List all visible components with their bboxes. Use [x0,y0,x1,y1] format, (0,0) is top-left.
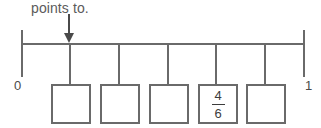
fraction-denominator: 6 [214,106,221,120]
answer-box-empty[interactable] [149,84,189,124]
box-connector-stem [215,44,217,85]
number-line-diagram: points to. 0 1 46 [0,0,321,128]
down-arrow-icon-shaft [68,14,70,35]
number-line-axis [21,43,305,45]
axis-label-start: 0 [14,79,21,93]
axis-label-end: 1 [305,79,312,93]
box-connector-stem [264,44,266,85]
tick-end [303,30,305,77]
tick-start [21,30,23,77]
prompt-text: points to. [31,0,89,16]
box-connector-stem [167,44,169,85]
answer-box-empty[interactable] [100,84,140,124]
box-connector-stem [118,44,120,85]
answer-box-empty[interactable] [51,84,91,124]
fraction-bar [212,104,225,105]
box-connector-stem [69,44,71,85]
fraction: 46 [212,89,225,120]
down-arrow-icon [64,33,74,43]
fraction-numerator: 4 [214,89,221,103]
answer-box-filled[interactable]: 46 [198,84,238,124]
answer-box-empty[interactable] [246,84,286,124]
